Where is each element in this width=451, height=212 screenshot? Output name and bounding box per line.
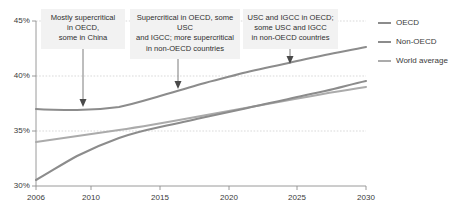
x-tick-2010: 2010 [71, 193, 111, 202]
legend-swatch-non-oecd [378, 41, 391, 43]
annotation-2-line-1: Supercritical in OECD, some USC [134, 13, 236, 33]
annotation-3-line-1: USC and IGCC in OECD; [247, 13, 334, 23]
annotation-3-line-2: some USC and IGCC [247, 23, 334, 33]
annotation-box-1: Mostly supercritical in OECD, some in Ch… [41, 9, 125, 49]
x-tick-2006: 2006 [16, 193, 56, 202]
annotation-box-3: USC and IGCC in OECD; some USC and IGCC … [243, 9, 338, 49]
legend-swatch-world-average [378, 60, 391, 62]
x-tick-2015: 2015 [140, 193, 180, 202]
x-tick-2030: 2030 [346, 193, 386, 202]
legend-item-oecd: OECD [378, 13, 448, 32]
x-tick-2020: 2020 [209, 193, 249, 202]
annotation-1-line-3: some in China [45, 33, 121, 43]
y-tick-45: 45% [4, 16, 30, 25]
legend-label-non-oecd: Non-OECD [396, 37, 436, 46]
legend-item-non-oecd: Non-OECD [378, 32, 448, 51]
annotation-1-line-1: Mostly supercritical [45, 13, 121, 23]
annotation-2-line-2: and IGCC; more supercritical [134, 33, 236, 43]
y-tick-30: 30% [4, 181, 30, 190]
annotation-2-line-3: in non-OECD countries [134, 44, 236, 54]
annotation-box-2: Supercritical in OECD, some USC and IGCC… [130, 9, 240, 59]
annotation-3-line-3: in non-OECD countries [247, 33, 334, 43]
annotation-arrow-1 [80, 49, 87, 107]
annotation-1-line-2: in OECD, [45, 23, 121, 33]
y-tick-35: 35% [4, 126, 30, 135]
y-tick-40: 40% [4, 71, 30, 80]
legend-label-world-average: World average [396, 56, 448, 65]
x-tick-2025: 2025 [277, 193, 317, 202]
series-line-world-average [36, 87, 366, 142]
chart-legend: OECD Non-OECD World average [378, 13, 448, 70]
legend-swatch-oecd [378, 22, 391, 24]
legend-label-oecd: OECD [396, 18, 419, 27]
efficiency-line-chart: 45% 40% 35% 30% 2006 2010 2015 2020 2025… [0, 0, 451, 212]
legend-item-world-average: World average [378, 51, 448, 70]
